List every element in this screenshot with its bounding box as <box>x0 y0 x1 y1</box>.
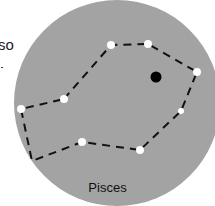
planet-dot-icon <box>151 72 162 83</box>
star-icon <box>78 138 86 146</box>
constellation-diagram <box>0 0 215 206</box>
star-icon <box>136 146 144 154</box>
star-icon <box>17 105 25 113</box>
star-icon <box>107 41 115 49</box>
star-icon <box>178 108 184 114</box>
star-icon <box>60 95 68 103</box>
star-icon <box>144 40 152 48</box>
star-icon <box>193 68 201 76</box>
constellation-name: Pisces <box>0 180 215 195</box>
